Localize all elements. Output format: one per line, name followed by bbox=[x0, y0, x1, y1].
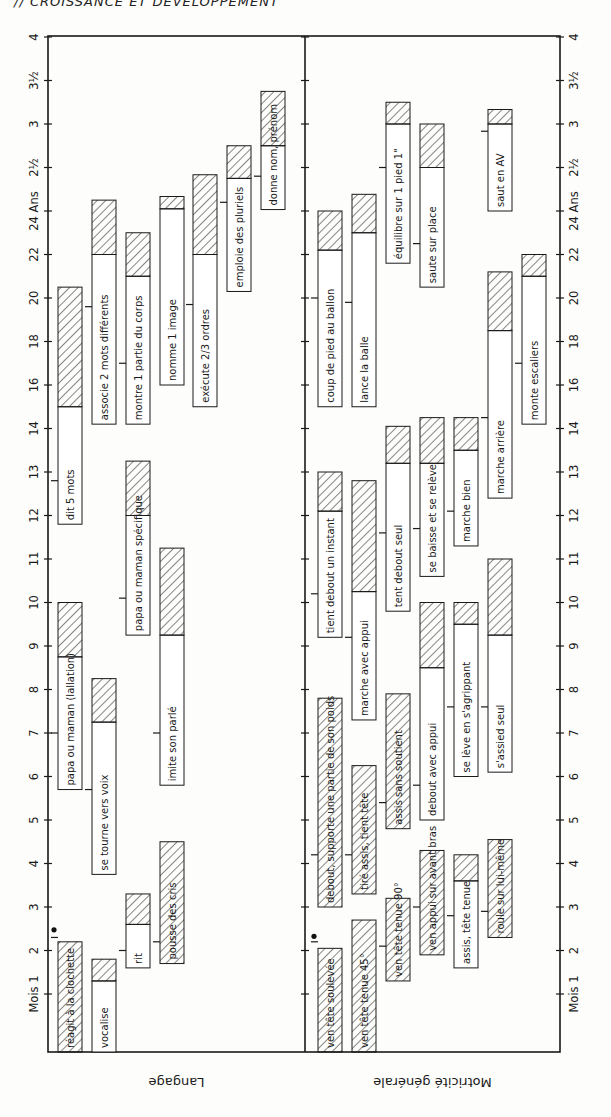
milestone-label: dit 5 mots bbox=[65, 469, 76, 520]
milestone-bar: se baisse et se relève bbox=[413, 418, 444, 577]
milestone-label: équilibre sur 1 pied 1" bbox=[393, 148, 404, 259]
age-axis-right: Mois 12345678910111213141618202224 Ans2½… bbox=[567, 33, 581, 1012]
milestone-label: saut en AV bbox=[495, 153, 506, 207]
age-tick-label-right: 20 bbox=[567, 291, 581, 306]
milestone-label: marche avec appui bbox=[359, 620, 370, 716]
age-tick-label-right: 11 bbox=[567, 552, 581, 567]
milestone-bar: associe 2 mots différents bbox=[85, 200, 116, 424]
age-tick-label-left: 6 bbox=[27, 773, 41, 780]
age-tick-label-left: 3 bbox=[27, 903, 41, 910]
age-tick-label-left: 14 bbox=[27, 421, 41, 436]
milestone-label: debout, supporte une partie de son poids bbox=[325, 696, 336, 903]
age-tick-label-left: 18 bbox=[27, 334, 41, 349]
section-title-langage: Langage bbox=[149, 1075, 205, 1090]
milestone-label: montre 1 partie du corps bbox=[133, 295, 144, 420]
milestone-bar: imite son parlé bbox=[153, 548, 184, 785]
age-tick-label-left: 20 bbox=[27, 291, 41, 306]
milestone-bar: réagit à la clochette bbox=[51, 927, 82, 1052]
milestone-bar: se lève en s'agrippant bbox=[447, 603, 478, 777]
milestone-bar: s'assied seul bbox=[481, 559, 512, 772]
milestone-label: réagit à la clochette bbox=[65, 948, 76, 1048]
panel-langage: réagit à la clochettevocaliseritpousse d… bbox=[51, 91, 285, 1052]
milestone-bar: assis, tête tenue bbox=[447, 855, 478, 968]
age-tick-label-right: 8 bbox=[567, 686, 581, 693]
milestone-bar: vocalise bbox=[92, 959, 116, 1052]
age-tick-label-right: 4 bbox=[567, 860, 581, 867]
milestone-label: debout avec appui bbox=[427, 723, 438, 816]
milestone-bar: coup de pied au ballon bbox=[311, 211, 342, 407]
development-chart: Mois 12345678910111213141618202224 Ans2½… bbox=[0, 0, 611, 1117]
milestone-label: nomme 1 image bbox=[167, 299, 178, 381]
age-tick-label-left: 4 bbox=[27, 33, 41, 40]
age-tick-label-right: 2 bbox=[567, 947, 581, 954]
milestone-label: coup de pied au ballon bbox=[325, 289, 336, 403]
milestone-bar: marche avec appui bbox=[345, 481, 376, 720]
milestone-label: pousse des cris bbox=[167, 883, 178, 960]
milestone-label: assis sans soutient bbox=[393, 730, 404, 825]
milestone-label: tent debout seul bbox=[393, 525, 404, 607]
age-tick-label-left: 13 bbox=[27, 465, 41, 480]
age-tick-label-right: 3 bbox=[567, 120, 581, 127]
age-tick-label-left: 3½ bbox=[27, 71, 41, 89]
milestone-bar: ven tête tenue 90° bbox=[379, 882, 410, 981]
milestone-bar: lance la balle bbox=[345, 194, 376, 406]
age-tick-label-left: 7 bbox=[27, 729, 41, 736]
milestone-bar: ven tête tenue 45° bbox=[352, 920, 376, 1052]
milestone-label: exécute 2/3 ordres bbox=[200, 309, 211, 403]
milestone-bar: assis sans soutient bbox=[379, 694, 410, 829]
milestone-bar: marche arrière bbox=[481, 272, 512, 498]
age-tick-label-left: 10 bbox=[27, 595, 41, 610]
milestone-bar: ven appui sur avant bras bbox=[413, 826, 444, 955]
milestone-bar: donne nom, prénom bbox=[254, 91, 285, 209]
age-tick-label-left: 2 bbox=[27, 947, 41, 954]
milestone-bar: équilibre sur 1 pied 1" bbox=[379, 102, 410, 263]
section-title-motricite: Motricité générale bbox=[373, 1075, 492, 1090]
milestone-label: papa ou maman spécifique bbox=[133, 495, 144, 631]
milestone-label: tiré assis, tient tête bbox=[359, 793, 370, 890]
milestone-label: emploie des pluriels bbox=[234, 187, 245, 288]
milestone-label: ven tête tenue 45° bbox=[359, 953, 370, 1048]
age-tick-label-left: 3 bbox=[27, 120, 41, 127]
age-tick-label-right: 16 bbox=[567, 378, 581, 393]
milestone-label: ven tête tenue 90° bbox=[393, 882, 404, 977]
milestone-label: imite son parlé bbox=[167, 706, 178, 781]
age-tick-label-right: Mois 1 bbox=[567, 975, 581, 1012]
milestone-label: s'assied seul bbox=[495, 705, 506, 768]
age-tick-label-left: 22 bbox=[27, 247, 41, 262]
milestone-bar: monte escaliers bbox=[515, 255, 546, 425]
milestone-bar: debout avec appui bbox=[413, 603, 444, 821]
age-tick-label-left: 5 bbox=[27, 816, 41, 823]
milestone-bar: dit 5 mots bbox=[51, 287, 82, 524]
milestone-label: ven appui sur avant bras bbox=[427, 826, 438, 951]
age-tick-label-right: 24 Ans bbox=[567, 191, 581, 230]
age-tick-label-left: 12 bbox=[27, 508, 41, 523]
milestone-bar: emploie des pluriels bbox=[220, 146, 251, 292]
milestone-bar: saute sur place bbox=[413, 124, 444, 287]
age-tick-label-right: 22 bbox=[567, 247, 581, 262]
milestone-bar: papa ou maman spécifique bbox=[119, 461, 150, 635]
age-tick-label-left: 24 Ans bbox=[27, 191, 41, 230]
milestone-label: papa ou maman (lallation) bbox=[65, 653, 76, 786]
panel-motricite-generale: ven tête soulevéeven tête tenue 45°ven t… bbox=[311, 102, 546, 1052]
milestone-label: marche bien bbox=[461, 479, 472, 542]
milestone-bar: ven tête soulevée bbox=[311, 934, 342, 1052]
milestone-label: rit bbox=[133, 953, 144, 964]
milestone-label: roule sur lui-même bbox=[495, 839, 506, 934]
age-tick-label-left: Mois 1 bbox=[27, 975, 41, 1012]
milestone-bar: marche bien bbox=[447, 418, 478, 546]
age-tick-label-right: 6 bbox=[567, 773, 581, 780]
chart-frame bbox=[44, 36, 564, 1052]
age-tick-label-right: 3½ bbox=[567, 71, 581, 89]
milestone-bar: tent debout seul bbox=[379, 426, 410, 611]
age-tick-label-right: 9 bbox=[567, 642, 581, 649]
section-titles: LangageMotricité générale bbox=[149, 1075, 492, 1090]
age-tick-label-left: 16 bbox=[27, 378, 41, 393]
milestone-bar: nomme 1 image bbox=[160, 197, 184, 386]
age-tick-label-left: 9 bbox=[27, 642, 41, 649]
age-tick-label-right: 10 bbox=[567, 595, 581, 610]
age-tick-label-left: 2½ bbox=[27, 158, 41, 176]
age-tick-label-right: 4 bbox=[567, 33, 581, 40]
milestone-bar: rit bbox=[119, 894, 150, 968]
milestone-bar: exécute 2/3 ordres bbox=[186, 175, 217, 407]
age-tick-label-left: 11 bbox=[27, 552, 41, 567]
